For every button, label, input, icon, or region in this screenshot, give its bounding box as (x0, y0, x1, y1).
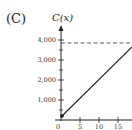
x-tick-label: 0 (56, 123, 60, 130)
y-tick-label: 1,000 (37, 96, 56, 104)
chart-plot: 1,000 2,000 3,000 4,000 0 5 10 15 (0, 0, 132, 130)
start-point-dot (60, 114, 64, 118)
y-tick-label: 3,000 (37, 56, 56, 64)
x-tick-label: 10 (95, 123, 103, 130)
x-tick-labels: 0 5 10 15 (56, 123, 122, 130)
y-tick-labels: 1,000 2,000 3,000 4,000 (37, 36, 56, 104)
y-tick-label: 4,000 (37, 36, 56, 44)
x-tick-label: 5 (78, 123, 82, 130)
cost-line (62, 47, 132, 116)
y-axis-arrow-icon (59, 25, 64, 31)
x-tick-label: 15 (114, 123, 122, 130)
y-tick-label: 2,000 (37, 76, 56, 84)
